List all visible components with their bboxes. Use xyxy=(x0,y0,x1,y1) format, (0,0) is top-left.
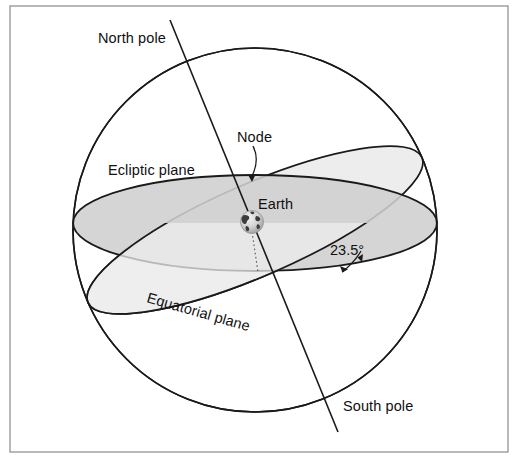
astronomy-diagram-figure: North pole Node Earth Ecliptic plane Equ… xyxy=(0,0,522,461)
label-tilt-angle: 23.5° xyxy=(330,242,364,258)
label-ecliptic-plane: Ecliptic plane xyxy=(108,162,195,178)
celestial-sphere-svg: North pole Node Earth Ecliptic plane Equ… xyxy=(0,0,522,461)
label-node: Node xyxy=(237,129,272,145)
label-south-pole: South pole xyxy=(343,398,413,414)
label-earth: Earth xyxy=(258,196,293,212)
earth-globe xyxy=(241,211,264,234)
label-north-pole: North pole xyxy=(98,30,166,46)
